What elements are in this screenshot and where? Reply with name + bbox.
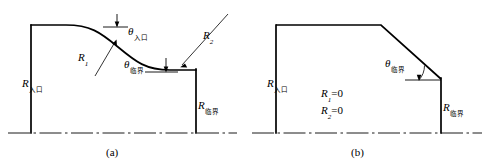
panel-a-contour-curve bbox=[31, 25, 196, 70]
figure-linework bbox=[0, 0, 491, 167]
panel-a-r-inlet-label: R入口 bbox=[22, 78, 43, 92]
panel-b-r1-equals-zero-label: R1=0 bbox=[321, 88, 343, 102]
panel-a-theta-critical-label: θ临界 bbox=[124, 59, 143, 73]
panel-b-caption: (b) bbox=[351, 146, 364, 158]
panel-b-r2-equals-zero-label: R2=0 bbox=[321, 105, 343, 119]
figure-root: R入口 R临界 R1 R2 θ入口 θ临界 (a) R入口 R临界 θ临界 R1… bbox=[0, 0, 491, 167]
panel-a-r1-label: R1 bbox=[78, 52, 88, 66]
panel-a-r1-leader-line bbox=[95, 42, 115, 76]
panel-a-r2-label: R2 bbox=[203, 30, 213, 44]
panel-a-r-critical-label: R临界 bbox=[198, 100, 219, 114]
panel-a-theta-inlet-label: θ入口 bbox=[128, 26, 147, 40]
panel-b-r-inlet-label: R入口 bbox=[267, 78, 288, 92]
panel-b-r-critical-label: R临界 bbox=[443, 102, 464, 116]
panel-a-r2-leader-arrow bbox=[180, 63, 187, 67]
panel-b-theta-critical-label: θ临界 bbox=[385, 58, 404, 72]
panel-b-contour-straight bbox=[276, 25, 441, 79]
panel-a-caption: (a) bbox=[106, 146, 118, 158]
